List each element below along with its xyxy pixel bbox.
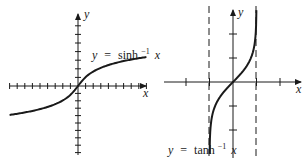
- asinh-label: y = sinh −1 x: [91, 43, 161, 62]
- figure: y x y = sinh −1 x y x y = tanh −1 x: [0, 0, 303, 160]
- atanh-chart: y x y = tanh −1 x: [164, 5, 302, 158]
- right-y-axis-label: y: [237, 5, 244, 19]
- atanh-label: y = tanh −1 x: [167, 138, 237, 157]
- right-x-axis-label: x: [295, 82, 302, 96]
- left-y-axis-label: y: [83, 7, 90, 21]
- left-x-axis-label: x: [142, 86, 149, 100]
- asinh-chart: y x y = sinh −1 x: [10, 7, 161, 155]
